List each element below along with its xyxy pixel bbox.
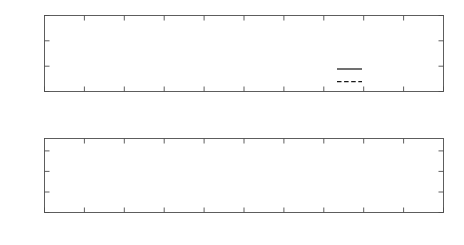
input-dosage-axes-frame (45, 139, 444, 213)
concentration-panel (0, 0, 464, 122)
concentration-plot-svg (0, 0, 464, 122)
input-dosage-x-ticks (45, 139, 444, 213)
concentration-legend (337, 69, 362, 82)
figure-container (0, 0, 464, 245)
concentration-x-ticks (45, 16, 444, 92)
concentration-axes-frame (45, 16, 444, 92)
input-dosage-plot-svg (0, 122, 464, 245)
input-dosage-panel (0, 122, 464, 245)
concentration-y-ticks (45, 16, 444, 92)
input-dosage-y-ticks (45, 151, 444, 213)
